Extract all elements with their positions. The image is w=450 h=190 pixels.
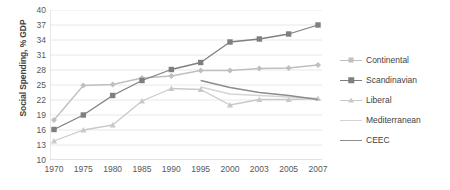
data-point [198, 68, 204, 74]
data-point [198, 60, 203, 65]
legend-swatch-icon [340, 114, 362, 126]
legend-label: Continental [366, 55, 409, 65]
y-tick-label: 37 [24, 20, 46, 30]
legend-label: Liberal [366, 95, 392, 105]
data-point [257, 36, 262, 41]
data-point [139, 78, 144, 83]
data-point [315, 22, 320, 27]
legend-item-continental[interactable]: Continental [340, 50, 448, 70]
legend-label: CEEC [366, 135, 390, 145]
plot-wrapper [50, 10, 322, 160]
y-tick-label: 16 [24, 125, 46, 135]
data-point [315, 62, 321, 68]
y-tick-label: 19 [24, 110, 46, 120]
legend-label: Scandinavian [366, 75, 417, 85]
y-tick-label: 28 [24, 65, 46, 75]
legend-swatch-icon [340, 54, 362, 66]
y-tick-label: 31 [24, 50, 46, 60]
data-point [51, 127, 56, 132]
data-point [169, 67, 174, 72]
y-tick-label: 34 [24, 35, 46, 45]
line-chart: Social Spending, % GDP 10131619222528313… [0, 0, 450, 190]
data-point [256, 66, 262, 72]
data-point [110, 93, 115, 98]
legend-item-scandinavian[interactable]: Scandinavian [340, 70, 448, 90]
legend-label: Mediterranean [366, 115, 421, 125]
legend-item-mediterranean[interactable]: Mediterranean [340, 110, 448, 130]
series-line [54, 25, 318, 130]
y-tick-label: 25 [24, 80, 46, 90]
y-tick-label: 40 [24, 5, 46, 15]
x-tick-label: 2007 [298, 164, 338, 174]
series-scandinavian [51, 22, 320, 132]
data-point [286, 31, 291, 36]
data-point [81, 112, 86, 117]
series-continental [51, 62, 321, 123]
y-tick-label: 22 [24, 95, 46, 105]
legend-item-liberal[interactable]: Liberal [340, 90, 448, 110]
data-point [168, 73, 174, 79]
data-point [110, 82, 116, 88]
legend-item-ceec[interactable]: CEEC [340, 130, 448, 150]
series-line [54, 65, 318, 120]
legend-swatch-icon [340, 94, 362, 106]
chart-legend: ContinentalScandinavianLiberalMediterran… [340, 50, 448, 150]
y-tick-label: 13 [24, 140, 46, 150]
data-point [227, 39, 232, 44]
plot-area [50, 10, 322, 160]
legend-swatch-icon [340, 74, 362, 86]
legend-swatch-icon [340, 134, 362, 146]
data-point [227, 68, 233, 74]
